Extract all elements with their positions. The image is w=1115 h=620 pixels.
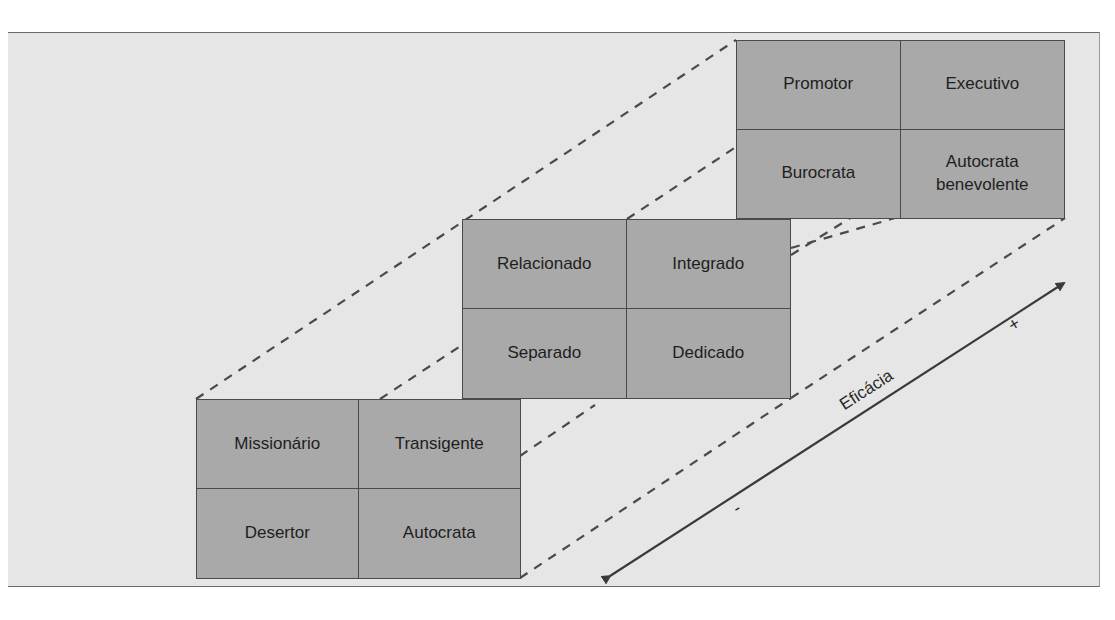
cell-autocrata-benevolente: Autocrata benevolente bbox=[901, 130, 1065, 219]
dashed-line-middle-left-upper bbox=[627, 147, 736, 219]
style-grid-high: Promotor Executivo Burocrata Autocrata b… bbox=[736, 40, 1065, 219]
cell-missionario: Missionário bbox=[197, 400, 359, 489]
cell-executivo: Executivo bbox=[901, 41, 1065, 130]
cell-integrado: Integrado bbox=[627, 220, 791, 309]
cell-desertor: Desertor bbox=[197, 489, 359, 578]
dashed-line-middle-left bbox=[380, 345, 462, 399]
style-grid-low: Missionário Transigente Desertor Autocra… bbox=[196, 399, 521, 579]
cell-dedicado: Dedicado bbox=[627, 309, 791, 398]
dashed-line-bottom-right bbox=[520, 398, 791, 578]
cell-transigente: Transigente bbox=[359, 400, 521, 489]
cell-burocrata: Burocrata bbox=[737, 130, 901, 219]
dashed-line-bottom-right-upper bbox=[791, 218, 895, 248]
cell-autocrata: Autocrata bbox=[359, 489, 521, 578]
style-grid-basic: Relacionado Integrado Separado Dedicado bbox=[462, 219, 791, 399]
cell-separado: Separado bbox=[463, 309, 627, 398]
dashed-line-right-outer bbox=[520, 405, 595, 456]
cell-promotor: Promotor bbox=[737, 41, 901, 130]
cell-relacionado: Relacionado bbox=[463, 220, 627, 309]
